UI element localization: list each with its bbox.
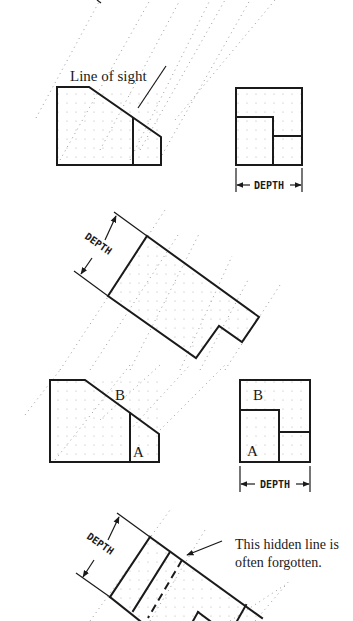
panel-3: B A B A DEPTH: [25, 365, 310, 492]
diagram-canvas: Line of sight DEPTH: [0, 0, 353, 621]
top-leader-fragment: [97, 0, 101, 3]
depth-dimension: DEPTH: [236, 168, 302, 192]
panel-2: DEPTH: [60, 210, 280, 370]
depth-dimension: DEPTH: [240, 466, 310, 492]
label-b-front: B: [115, 387, 125, 403]
line-of-sight-label: Line of sight: [70, 68, 147, 84]
front-view: [57, 87, 161, 165]
depth-label: DEPTH: [260, 479, 290, 490]
side-view: [236, 88, 302, 165]
hidden-line-callout: This hidden line is often forgotten.: [187, 537, 339, 570]
panel-1: Line of sight DEPTH: [36, 0, 302, 192]
callout-line-2: often forgotten.: [235, 555, 322, 570]
auxiliary-view: [108, 236, 259, 358]
label-b-side: B: [253, 387, 263, 403]
depth-label: DEPTH: [254, 180, 284, 191]
label-a-front: A: [133, 444, 144, 460]
label-a-side: A: [247, 443, 258, 459]
front-view: B A: [50, 380, 159, 462]
callout-line-1: This hidden line is: [235, 537, 339, 552]
panel-4: DEPTH This hidden line is often forgotte…: [76, 510, 339, 621]
diagram-svg: Line of sight DEPTH: [0, 0, 353, 621]
side-view: B A: [240, 380, 310, 462]
depth-label: DEPTH: [83, 231, 114, 257]
